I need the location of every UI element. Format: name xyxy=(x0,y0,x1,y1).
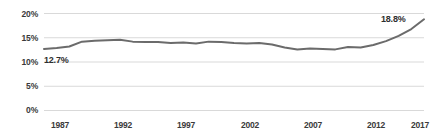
y-axis-tick-15: 15% xyxy=(6,33,38,43)
end-value-label: 18.8% xyxy=(381,14,406,24)
y-axis-tick-20: 20% xyxy=(6,9,38,19)
line-chart: 20% 15% 10% 5% 0% 1987 1992 1997 2002 20… xyxy=(0,0,432,140)
y-axis-tick-10: 10% xyxy=(6,57,38,67)
x-axis-tick-2017: 2017 xyxy=(400,120,432,130)
gridlines xyxy=(44,14,424,111)
x-axis-tick-1992: 1992 xyxy=(103,120,143,130)
x-axis-tick-2002: 2002 xyxy=(230,120,270,130)
chart-plot-area xyxy=(0,0,432,140)
y-axis-tick-0: 0% xyxy=(6,105,38,115)
start-value-label: 12.7% xyxy=(44,55,69,65)
x-axis-tick-1987: 1987 xyxy=(40,120,80,130)
y-axis-tick-5: 5% xyxy=(6,81,38,91)
data-series-line xyxy=(44,19,424,49)
x-axis-tick-2012: 2012 xyxy=(356,120,396,130)
x-axis-tick-2007: 2007 xyxy=(293,120,333,130)
x-axis-tick-1997: 1997 xyxy=(166,120,206,130)
